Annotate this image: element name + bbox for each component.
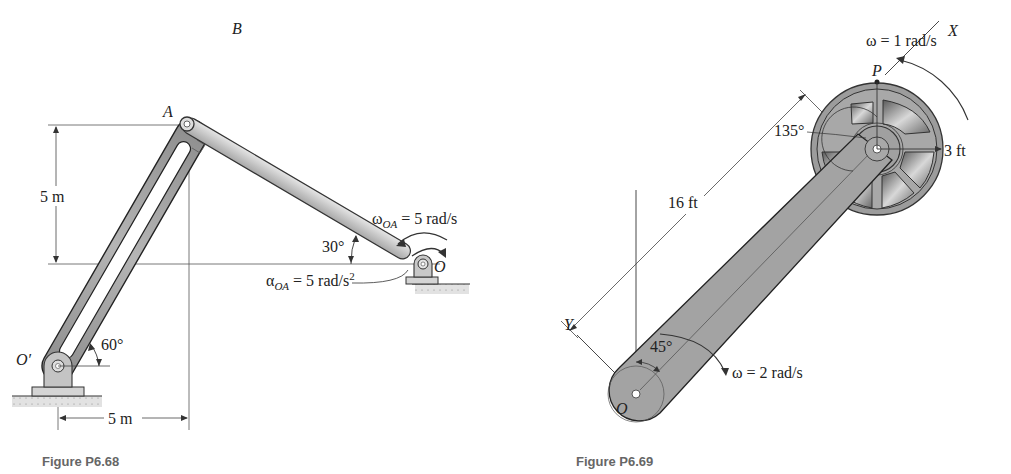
label-point-o: O	[616, 400, 628, 417]
label-point-o-prime: O′	[16, 351, 32, 368]
slotted-bar	[36, 114, 213, 388]
arrowhead-icon	[181, 415, 188, 421]
pin-hole	[184, 121, 190, 127]
label-alpha-oa: αOA = 5 rad/s2	[266, 270, 355, 292]
arrowhead-icon	[348, 256, 354, 263]
arrowhead-icon	[53, 256, 59, 263]
arrowhead-icon	[352, 235, 359, 242]
arrowhead-icon	[53, 126, 59, 133]
label-angle-60: 60°	[101, 336, 123, 353]
alpha-leader-line	[352, 270, 408, 283]
label-radius: 3 ft	[944, 142, 966, 159]
link-oa	[179, 115, 413, 262]
pin-o	[632, 390, 640, 398]
arrowhead-icon	[798, 94, 806, 101]
label-omega-disk: ω = 1 rad/s	[866, 32, 937, 49]
label-omega-oa: ωOA = 5 rad/s	[372, 210, 457, 230]
arrowhead-icon	[96, 359, 102, 366]
label-point-a: A	[162, 103, 173, 120]
label-horizontal-dim: 5 m	[108, 410, 133, 427]
label-angle-45: 45°	[650, 338, 672, 355]
diagram-canvas: B A O O′ 5 m 5 m 30° 60° ωOA = 5 rad/s α…	[0, 0, 1011, 474]
label-axis-x: X	[947, 22, 959, 39]
label-omega-arm: ω = 2 rad/s	[732, 364, 803, 381]
arrowhead-icon	[438, 248, 446, 258]
label-axis-y: Y	[564, 316, 575, 333]
label-point-o: O	[434, 258, 446, 275]
label-point-p: P	[871, 62, 882, 79]
omega-oa-arrow	[398, 233, 447, 244]
label-angle-135: 135°	[774, 122, 804, 139]
label-point-b: B	[232, 20, 242, 37]
ground-hatch	[415, 284, 469, 294]
arrowhead-icon	[721, 368, 729, 376]
disk-window	[851, 102, 873, 124]
label-length: 16 ft	[668, 194, 698, 211]
figure-p6-69: P X Y ω = 1 rad/s 16 ft 3 ft 135° 45° ω …	[561, 21, 968, 469]
figure-caption-p6-69: Figure P6.69	[576, 454, 653, 469]
figure-p6-68: B A O O′ 5 m 5 m 30° 60° ωOA = 5 rad/s α…	[12, 20, 470, 469]
ground-hatch	[12, 396, 102, 407]
arrowhead-icon	[59, 415, 66, 421]
figure-caption-p6-68: Figure P6.68	[42, 454, 119, 469]
label-angle-30: 30°	[322, 238, 344, 255]
label-vertical-dim: 5 m	[40, 188, 65, 205]
